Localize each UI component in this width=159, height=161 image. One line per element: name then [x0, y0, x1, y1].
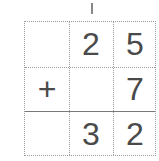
carry-digit	[90, 3, 94, 14]
cell-r2-c2: 2	[113, 112, 157, 157]
cell-r0-c0	[25, 22, 69, 67]
cell-r0-c2: 5	[113, 22, 157, 67]
cell-r0-c1: 2	[69, 22, 113, 67]
addition-grid: 2 5 + 7 3 2	[24, 21, 156, 156]
cell-r2-c0	[25, 112, 69, 157]
plus-sign: +	[25, 67, 69, 112]
cell-r2-c1: 3	[69, 112, 113, 157]
cell-r1-c2: 7	[113, 67, 157, 112]
cell-r1-c1	[69, 67, 113, 112]
